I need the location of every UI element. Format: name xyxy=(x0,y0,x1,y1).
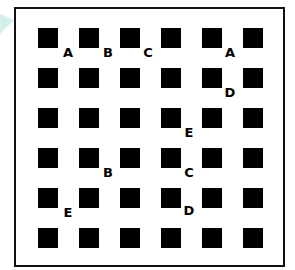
grid-square xyxy=(202,148,222,168)
grid-square xyxy=(120,28,140,48)
grid-square xyxy=(38,228,58,248)
grid-square xyxy=(38,28,58,48)
grid-square xyxy=(79,28,99,48)
grid-square xyxy=(202,228,222,248)
label-c-1: C xyxy=(142,46,154,59)
grid-square xyxy=(161,28,181,48)
label-b-1: B xyxy=(102,46,114,59)
grid-square xyxy=(79,228,99,248)
grid-square xyxy=(161,148,181,168)
grid-square xyxy=(243,68,263,88)
grid-square xyxy=(79,148,99,168)
grid-square xyxy=(161,108,181,128)
label-a-1: A xyxy=(62,46,74,59)
grid-square xyxy=(120,68,140,88)
label-b-2: B xyxy=(102,166,114,179)
grid-square xyxy=(38,68,58,88)
grid-square xyxy=(243,148,263,168)
grid-square xyxy=(79,68,99,88)
label-d-1: D xyxy=(224,86,236,99)
grid-square xyxy=(243,188,263,208)
grid-square xyxy=(202,68,222,88)
grid-square xyxy=(161,68,181,88)
grid-square xyxy=(161,188,181,208)
grid-square xyxy=(38,148,58,168)
grid-square xyxy=(38,188,58,208)
label-e-2: E xyxy=(62,206,74,219)
grid-square xyxy=(120,228,140,248)
label-d-2: D xyxy=(183,204,195,217)
grid-square xyxy=(38,108,58,128)
grid-square xyxy=(202,108,222,128)
grid-square xyxy=(120,188,140,208)
grid-square xyxy=(202,28,222,48)
grid-square xyxy=(161,228,181,248)
grid-square xyxy=(79,108,99,128)
grid-square xyxy=(120,108,140,128)
grid-square xyxy=(202,188,222,208)
label-a-2: A xyxy=(224,46,236,59)
label-e-1: E xyxy=(183,126,195,139)
decorative-accent-triangle xyxy=(0,14,14,34)
grid-square xyxy=(243,108,263,128)
label-c-2: C xyxy=(183,166,195,179)
grid-square xyxy=(243,28,263,48)
grid-square xyxy=(79,188,99,208)
grid-square xyxy=(120,148,140,168)
grid-square xyxy=(243,228,263,248)
